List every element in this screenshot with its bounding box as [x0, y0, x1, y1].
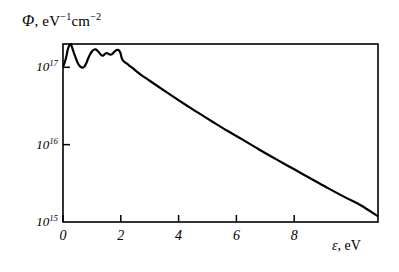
plot-area [0, 0, 399, 272]
figure-container: Φ, eV−1cm−2 ε, eV 1015 1016 1017 0 2 4 6… [0, 0, 399, 272]
plot-frame [63, 44, 378, 222]
